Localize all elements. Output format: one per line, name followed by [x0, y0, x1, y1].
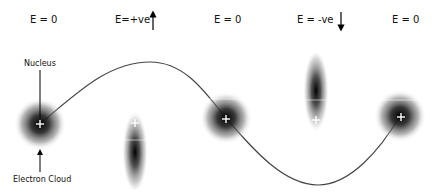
field-label-2: E=+ve — [115, 14, 150, 25]
polarization-diagram — [0, 0, 440, 194]
field-label-4: E = -ve — [297, 14, 333, 25]
field-label-5: E = 0 — [392, 14, 419, 25]
electron-cloud-4 — [303, 53, 329, 137]
electron-cloud-5 — [374, 90, 426, 142]
nucleus-label: Nucleus — [24, 59, 56, 68]
electron-cloud-label: Electron Cloud — [13, 175, 71, 184]
field-label-3: E = 0 — [214, 14, 241, 25]
field-label-1: E = 0 — [30, 14, 57, 25]
electron-cloud-2 — [122, 106, 148, 190]
